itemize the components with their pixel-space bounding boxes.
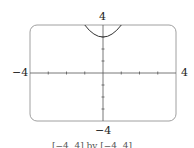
window-caption: [−4, 4] by [−4, 4] <box>52 142 132 148</box>
y-max-label: 4 <box>99 11 106 22</box>
x-min-label: −4 <box>12 67 28 78</box>
x-max-label: 4 <box>181 67 188 78</box>
y-min-label: −4 <box>95 125 111 136</box>
axes <box>30 25 176 121</box>
